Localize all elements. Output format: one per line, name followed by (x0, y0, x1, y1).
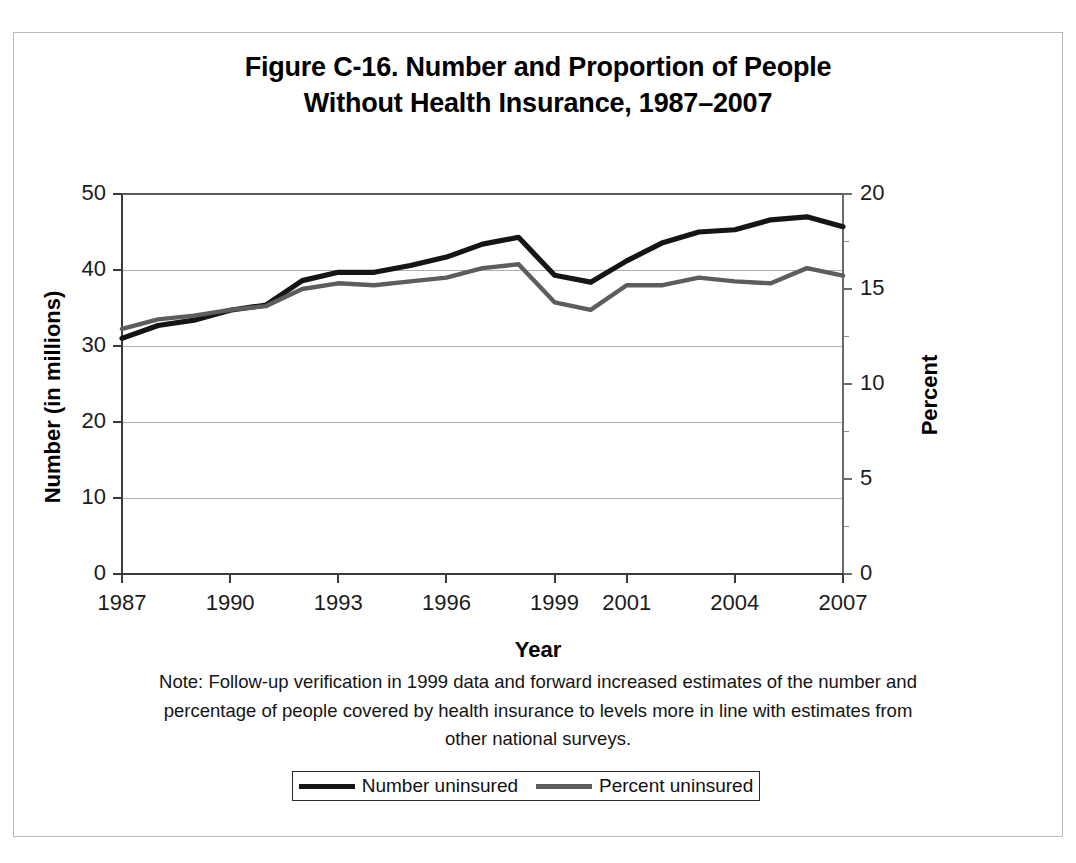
y-left-tick-label-40: 40 (22, 256, 106, 282)
note-line-2: percentage of people covered by health i… (95, 697, 981, 726)
y-axis-right-title: Percent (917, 245, 943, 545)
y-right-tick-label-0: 0 (860, 560, 920, 586)
y-right-tick-label-20: 20 (860, 180, 920, 206)
y-left-tick-label-0: 0 (22, 560, 106, 586)
legend-item-percent-uninsured: Percent uninsured (536, 775, 753, 797)
gridlines (122, 270, 843, 498)
y-left-tick-label-50: 50 (22, 180, 106, 206)
legend-label-percent-uninsured: Percent uninsured (599, 775, 753, 797)
chart-legend: Number uninsured Percent uninsured (292, 771, 760, 801)
axis-ticks (113, 194, 852, 583)
legend-label-number-uninsured: Number uninsured (362, 775, 518, 797)
legend-swatch-percent-uninsured (536, 784, 592, 789)
x-tick-label-1996: 1996 (396, 590, 496, 616)
series-line-number-uninsured (122, 217, 843, 339)
legend-swatch-number-uninsured (299, 784, 355, 789)
y-left-tick-label-20: 20 (22, 408, 106, 434)
figure-page: Figure C-16. Number and Proportion of Pe… (0, 0, 1076, 863)
y-right-tick-label-5: 5 (860, 465, 920, 491)
x-tick-label-2001: 2001 (577, 590, 677, 616)
x-tick-label-1990: 1990 (180, 590, 280, 616)
y-right-tick-label-15: 15 (860, 275, 920, 301)
x-tick-label-2004: 2004 (685, 590, 785, 616)
note-line-3: other national surveys. (95, 725, 981, 754)
x-tick-label-1993: 1993 (288, 590, 388, 616)
x-axis-title: Year (0, 637, 1076, 663)
axis-frame (122, 194, 843, 574)
series-line-percent-uninsured (122, 264, 843, 329)
x-tick-label-1987: 1987 (72, 590, 172, 616)
y-left-tick-label-10: 10 (22, 484, 106, 510)
legend-item-number-uninsured: Number uninsured (299, 775, 518, 797)
figure-note: Note: Follow-up verification in 1999 dat… (95, 668, 981, 754)
x-tick-label-2007: 2007 (793, 590, 893, 616)
data-series-group (122, 217, 843, 339)
y-left-tick-label-30: 30 (22, 332, 106, 358)
y-right-tick-label-10: 10 (860, 370, 920, 396)
note-line-1: Note: Follow-up verification in 1999 dat… (95, 668, 981, 697)
